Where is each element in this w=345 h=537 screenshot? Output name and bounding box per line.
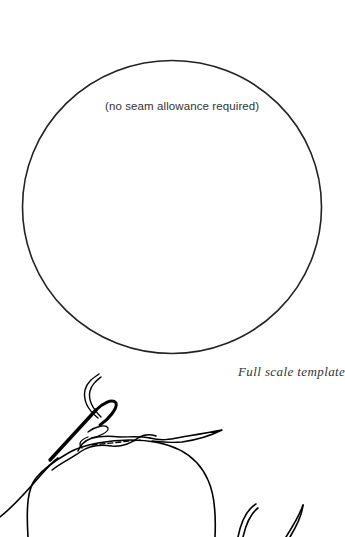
full-scale-caption: Full scale template (238, 364, 345, 380)
thread-tail (0, 458, 58, 517)
needle-body (50, 410, 96, 460)
needle-eye (96, 401, 116, 425)
seam-allowance-note: (no seam allowance required) (105, 100, 275, 112)
thread-end (150, 430, 222, 442)
sewing-illustration (0, 374, 303, 537)
